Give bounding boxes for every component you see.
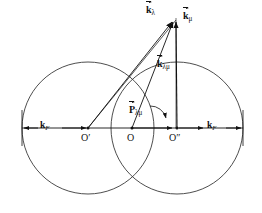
origin-dot-o [131,127,134,130]
label-k-lambda-base: k [146,4,152,15]
label-P-lambda-mu: Pλμ [129,105,142,117]
label-k-lambda: kλ [146,5,155,17]
label-k-lambda-mu-sub: λμ [163,63,170,71]
label-k-lambda-mu-base: k [157,58,163,69]
label-P-lambda-mu-sub: λμ [135,109,142,117]
label-k-mu-sub: μ [189,15,193,23]
label-P-lambda-mu-base: P [129,104,135,115]
label-kF-left: kF [40,121,49,132]
label-kF-right-sub: F [212,124,216,131]
label-k-lambda-mu: kλμ [157,59,170,71]
label-origin-center: O [127,133,134,143]
label-kF-left-sub: F [45,124,49,131]
label-k-mu-base: k [183,10,189,21]
label-k-lambda-sub: λ [152,9,156,17]
figure-canvas: kλ kμ kλμ Pλμ kF kF O′ O O″ [0,0,262,213]
label-origin-right: O″ [169,133,180,143]
origin-dot-o-dprime [176,127,179,130]
label-kF-right: kF [207,121,216,132]
label-k-mu: kμ [183,11,192,23]
origin-dot-o-prime [87,127,90,130]
label-origin-left: O′ [81,133,90,143]
